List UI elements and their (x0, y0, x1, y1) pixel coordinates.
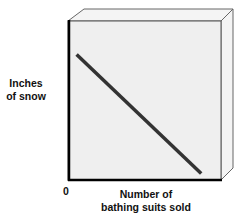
y-axis-label-line-2: of snow (2, 90, 50, 103)
origin-tick-label: 0 (62, 185, 70, 198)
x-axis-label: Number of bathing suits sold (96, 188, 196, 214)
x-axis-label-line-1: Number of (96, 188, 196, 201)
y-axis-label-line-1: Inches (2, 77, 50, 90)
box-side-face (221, 9, 233, 180)
plot-area (68, 21, 221, 180)
box-top-face (68, 9, 233, 21)
x-axis-label-line-2: bathing suits sold (96, 201, 196, 214)
y-axis-label: Inches of snow (2, 77, 50, 103)
